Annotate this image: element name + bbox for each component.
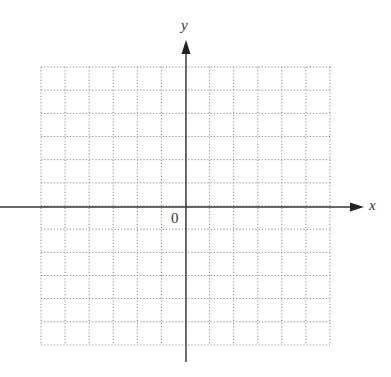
y-axis-label: y bbox=[181, 18, 188, 33]
x-axis-label: x bbox=[369, 198, 376, 213]
coordinate-plane bbox=[0, 0, 391, 377]
x-axis-arrow-icon bbox=[350, 203, 364, 212]
origin-label: 0 bbox=[171, 211, 179, 226]
y-axis-arrow-icon bbox=[182, 40, 191, 54]
